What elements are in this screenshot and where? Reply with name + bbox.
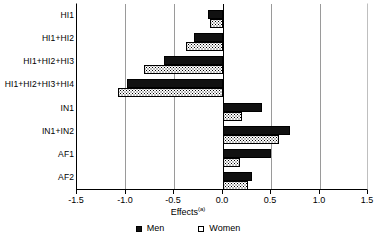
tick-label-1.0: 1.0 [299, 196, 339, 205]
gridline-1.0 [320, 4, 321, 189]
legend-item-women: Women [198, 224, 240, 233]
tick-mark--1.0 [125, 190, 126, 194]
bar-men-in1 [223, 103, 262, 112]
category-label-hi1-hi2: HI1+HI2 [42, 34, 74, 43]
bar-men-af1 [223, 149, 271, 158]
tick-mark-1.5 [367, 190, 368, 194]
chart-legend: Men Women [0, 224, 376, 233]
bar-women-hi1 [210, 19, 223, 28]
category-label-in1: IN1 [60, 104, 74, 113]
tick-mark-1.0 [319, 190, 320, 194]
bar-men-hi1 [208, 10, 223, 19]
category-label-hi1-hi2-hi3-hi4: HI1+HI2+HI3+HI4 [5, 80, 74, 89]
tick-mark--0.5 [173, 190, 174, 194]
legend-label-women: Women [209, 224, 240, 233]
x-axis-title-superscript: (a) [198, 206, 205, 212]
bar-women-af1 [223, 158, 240, 167]
tick-mark--1.5 [76, 190, 77, 194]
gridline-0.5 [271, 4, 272, 189]
bar-women-af2 [223, 181, 248, 190]
legend-label-men: Men [147, 224, 165, 233]
bar-men-hi1-hi2 [194, 33, 223, 42]
tick-label--1.0: -1.0 [105, 196, 145, 205]
bar-women-hi1-hi2 [186, 42, 223, 51]
x-axis-title-text: Effects [171, 207, 198, 217]
legend-swatch-women-icon [198, 226, 204, 232]
tick-label--0.5: -0.5 [153, 196, 193, 205]
category-label-hi1: HI1 [60, 11, 74, 20]
category-label-af1: AF1 [58, 150, 74, 159]
tick-label-0.5: 0.5 [250, 196, 290, 205]
plot-area [76, 3, 368, 190]
category-label-hi1-hi2-hi3: HI1+HI2+HI3 [23, 57, 74, 66]
legend-item-men: Men [136, 224, 165, 233]
bar-men-in1-in2 [223, 126, 290, 135]
tick-mark-0.0 [222, 190, 223, 194]
bar-women-in1-in2 [223, 135, 279, 144]
bar-women-hi1-hi2-hi3 [144, 65, 223, 74]
bar-men-hi1-hi2-hi3-hi4 [127, 79, 223, 88]
bar-men-hi1-hi2-hi3 [164, 56, 223, 65]
tick-label--1.5: -1.5 [56, 196, 96, 205]
tick-label-1.5: 1.5 [347, 196, 376, 205]
horizontal-bar-chart: HI1 HI1+HI2 HI1+HI2+HI3 HI1+HI2+HI3+HI4 … [0, 0, 376, 238]
x-axis-title: Effects(a) [0, 208, 376, 217]
tick-label-0.0: 0.0 [202, 196, 242, 205]
category-label-af2: AF2 [58, 173, 74, 182]
bar-women-in1 [223, 112, 242, 121]
bar-men-af2 [223, 172, 252, 181]
category-label-in1-in2: IN1+IN2 [42, 127, 74, 136]
bar-women-hi1-hi2-hi3-hi4 [118, 88, 223, 97]
legend-swatch-men-icon [136, 226, 142, 232]
tick-mark-0.5 [270, 190, 271, 194]
